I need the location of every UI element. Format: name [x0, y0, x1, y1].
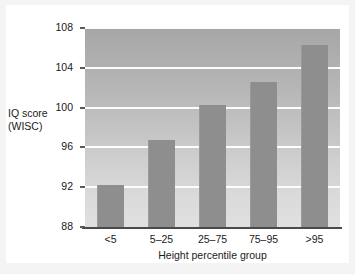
y-tick-104	[80, 67, 85, 69]
y-tick-label-88: 88	[39, 220, 73, 232]
y-tick-label-100: 100	[39, 101, 73, 113]
x-axis-line	[82, 227, 342, 229]
y-tick-label-96: 96	[39, 140, 73, 152]
x-axis-title: Height percentile group	[85, 249, 340, 261]
plot-area	[85, 28, 340, 227]
y-tick-88	[80, 226, 85, 228]
y-tick-100	[80, 107, 85, 109]
y-tick-108	[80, 27, 85, 29]
y-tick-92	[80, 186, 85, 188]
bar-25–75	[199, 105, 226, 227]
bar-75–95	[250, 82, 277, 227]
y-tick-label-104: 104	[39, 61, 73, 73]
y-axis-title-line-2: (WISC)	[8, 120, 70, 133]
y-tick-label-92: 92	[39, 180, 73, 192]
bar-5–25	[148, 140, 175, 227]
bar-series	[85, 28, 340, 227]
chart-figure: IQ score (WISC) 889296100104108 <55–2525…	[0, 0, 355, 274]
x-tick-label-4: >95	[285, 233, 345, 245]
y-tick-96	[80, 146, 85, 148]
bar->95	[301, 45, 328, 227]
bar-<5	[97, 185, 124, 227]
y-tick-label-108: 108	[39, 21, 73, 33]
